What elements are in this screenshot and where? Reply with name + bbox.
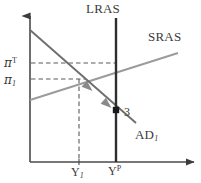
lras-label: LRAS (86, 2, 120, 15)
equilibrium-point-marker-3 (113, 107, 119, 113)
ad1-curve (30, 30, 136, 123)
sras-curve (30, 53, 178, 100)
pi-target-label: πT (4, 57, 17, 69)
ad1-label-subscript: 1 (154, 134, 158, 143)
ad1-label-main: AD (135, 127, 154, 142)
y1-label-subscript: 1 (80, 171, 84, 180)
sras-label: SRAS (148, 30, 181, 43)
yp-label-main: Y (108, 164, 117, 178)
pi-1-symbol: π (4, 73, 12, 87)
pi-1-subscript: 1 (12, 79, 16, 88)
yp-label-superscript: P (117, 164, 121, 173)
yp-label: YP (108, 165, 121, 177)
movement-arrow-2 (101, 98, 115, 111)
y1-label-main: Y (71, 165, 80, 179)
y1-label: Y1 (71, 166, 84, 180)
pi-1-label: π1 (4, 74, 16, 88)
diagram-canvas (0, 0, 201, 183)
point-3-label: 3 (124, 106, 130, 118)
ad-as-diagram: LRAS SRAS AD1 3 πT π1 Y1 YP (0, 0, 201, 183)
ad1-label: AD1 (135, 128, 158, 143)
pi-target-superscript: T (12, 56, 17, 65)
pi-target-symbol: π (4, 56, 12, 70)
